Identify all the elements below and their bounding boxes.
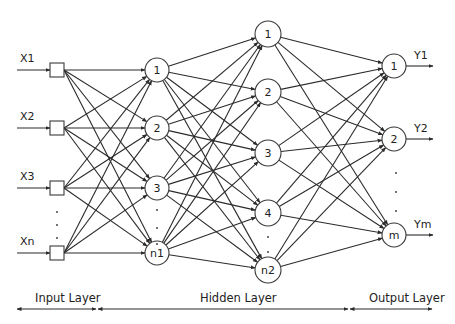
- edge: [281, 238, 383, 266]
- ellipsis-dot: [56, 237, 58, 239]
- connection-edges: [64, 37, 388, 268]
- hidden1-node-label: 1: [154, 64, 161, 77]
- edge: [164, 79, 260, 202]
- ellipsis-dots: [56, 172, 397, 253]
- ellipsis-dot: [395, 191, 397, 193]
- input-layer-label: Input Layer: [35, 291, 101, 305]
- hidden2-node-label: 1: [265, 28, 272, 41]
- edge: [275, 76, 388, 259]
- edge: [279, 145, 383, 206]
- input-arrows: X1X2X3Xn: [17, 52, 50, 253]
- input-label: X2: [20, 110, 35, 123]
- hidden2-node-label: n2: [261, 264, 275, 277]
- ellipsis-dot: [156, 209, 158, 211]
- hidden2-node-label: 4: [265, 207, 272, 220]
- edge: [168, 217, 255, 249]
- edge: [164, 137, 260, 259]
- hidden2-node-label: 3: [265, 147, 272, 160]
- edge: [281, 140, 382, 151]
- input-node-box: [50, 181, 64, 195]
- input-node-box: [50, 121, 64, 135]
- ellipsis-dot: [156, 227, 158, 229]
- input-label: X3: [20, 170, 35, 183]
- ellipsis-dot: [267, 236, 269, 238]
- ellipsis-dot: [267, 251, 269, 253]
- edge: [280, 97, 383, 135]
- hidden1-node-label: 2: [154, 122, 161, 135]
- edge: [167, 195, 258, 262]
- output-layer-label: Output Layer: [369, 291, 445, 305]
- output-label: Y2: [413, 122, 428, 135]
- edge: [276, 75, 386, 203]
- output-node-label: 1: [391, 60, 398, 73]
- hidden1-node-label: 3: [154, 182, 161, 195]
- output-node-label: 2: [391, 133, 398, 146]
- output-label: Ym: [413, 218, 431, 231]
- edge: [64, 128, 150, 243]
- hidden2-node-label: 2: [265, 86, 272, 99]
- output-label: Y1: [413, 49, 428, 62]
- edge: [275, 45, 388, 225]
- input-label: Xn: [20, 235, 35, 248]
- output-layer-nodes: 1Y12Y2mYm: [382, 49, 433, 247]
- ellipsis-dot: [56, 211, 58, 213]
- input-layer-nodes: [50, 63, 64, 260]
- edge: [168, 96, 255, 124]
- hidden-layer-2-nodes: 1234n2: [255, 21, 281, 283]
- input-node-box: [50, 63, 64, 77]
- edge: [168, 38, 255, 66]
- output-node-label: m: [389, 229, 400, 242]
- hidden1-node-label: n1: [150, 247, 164, 260]
- edge: [281, 37, 383, 63]
- ellipsis-dot: [395, 210, 397, 212]
- input-node-box: [50, 246, 64, 260]
- edge: [169, 255, 255, 268]
- edge: [166, 162, 258, 245]
- hidden-layer-label: Hidden Layer: [200, 291, 277, 305]
- edge: [64, 70, 150, 179]
- hidden-layer-1-nodes: 123n1: [145, 58, 169, 265]
- input-label: X1: [20, 52, 35, 65]
- edge: [64, 76, 147, 128]
- ellipsis-dot: [395, 172, 397, 174]
- neural-network-diagram: X1X2X3Xn 123n1 1234n2 1Y12Y2mYm Input La…: [0, 0, 455, 324]
- ellipsis-dot: [156, 243, 158, 245]
- edge: [64, 135, 147, 188]
- ellipsis-dot: [56, 224, 58, 226]
- edge: [64, 195, 147, 253]
